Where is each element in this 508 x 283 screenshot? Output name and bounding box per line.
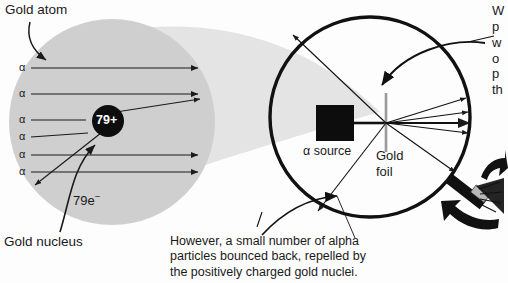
alpha-tag-5: α: [19, 148, 25, 160]
alpha-tag-6: α: [19, 165, 25, 177]
alpha-source-box: [316, 105, 354, 141]
electron-cloud-label: 79e−: [73, 192, 100, 209]
alpha-tag-4: α: [19, 130, 25, 142]
rotate-arrow-down: [441, 200, 499, 229]
foil-callout-arrow: [382, 42, 485, 85]
electron-charge-sign: −: [95, 192, 100, 202]
rotate-arrow-up: [481, 150, 508, 180]
alpha-tag-1: α: [19, 61, 25, 73]
scatter-ray-1: [386, 98, 466, 123]
electron-count: 79: [73, 193, 87, 208]
right-clipped-note: W p w o p th: [492, 3, 504, 98]
scattering-caption: However, a small number of alpha particl…: [170, 234, 366, 280]
caption-leader-tick: [257, 212, 262, 227]
gold-nucleus-label: Gold nucleus: [4, 234, 83, 250]
right-note-leader-line: [468, 36, 494, 42]
figure-canvas: Gold atom Gold nucleus 79e− α source Gol…: [0, 0, 508, 283]
gold-foil-label: Gold foil: [376, 148, 403, 180]
scatter-ray-2: [386, 112, 468, 123]
gold-atom-label: Gold atom: [5, 2, 67, 18]
alpha-source-label: α source: [303, 144, 351, 159]
detector-assembly: [441, 150, 508, 229]
nucleus-charge-label: 79+: [96, 113, 117, 128]
alpha-tag-3: α: [19, 113, 25, 125]
alpha-tag-2: α: [19, 87, 25, 99]
